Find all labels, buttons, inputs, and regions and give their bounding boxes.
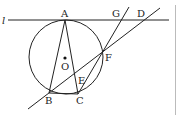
label-o: O — [61, 61, 69, 72]
line-bd — [28, 8, 160, 109]
segment-ac — [65, 20, 78, 94]
label-e: E — [78, 75, 85, 86]
label-g: G — [112, 8, 120, 19]
label-a: A — [60, 8, 69, 19]
center-point-o — [63, 56, 66, 59]
label-b: B — [45, 95, 52, 106]
label-f: F — [105, 52, 112, 63]
label-d: D — [137, 8, 145, 19]
label-l: l — [2, 15, 5, 26]
label-c: C — [76, 95, 84, 106]
geometry-diagram: l A G D F O E B C — [0, 0, 179, 116]
